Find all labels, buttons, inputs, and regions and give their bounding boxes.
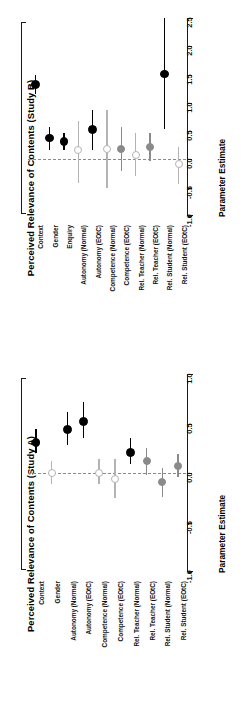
estimate-marker — [60, 137, 69, 146]
axis-tick-label: 1.0 — [185, 102, 194, 112]
panel-b-category-labels: ContextGenderEnquiryAutonomy (Normal)Aut… — [28, 222, 186, 342]
estimate-marker — [160, 70, 169, 79]
estimate-marker — [117, 145, 125, 153]
category-label: Rel. Teacher (Normal) — [136, 156, 143, 222]
axis-tick-label: 1.0 — [185, 373, 194, 383]
panel-b-value-axis: -1.0-0.50.00.51.01.52.02.5 — [187, 18, 192, 216]
estimate-marker — [74, 146, 82, 154]
estimate-marker — [88, 125, 97, 134]
estimate-marker — [63, 425, 72, 434]
axis-tick-label: 0.5 — [185, 423, 194, 433]
category-label: Autonomy (EOtC) — [83, 524, 90, 578]
panel-a-axis-caption: Parameter Estimate — [217, 454, 227, 614]
category-label: Autonomy (Normal) — [78, 162, 85, 222]
category-label: Context — [35, 198, 42, 222]
category-label: Competence (EOtC) — [121, 162, 128, 222]
estimate-marker — [45, 134, 54, 143]
estimate-marker — [111, 475, 119, 483]
category-label: Gender — [52, 556, 59, 578]
category-label: Rel. Student (EOtC) — [179, 163, 186, 222]
axis-tick-label: 2.0 — [185, 46, 194, 56]
estimate-marker — [174, 462, 182, 470]
axis-tick-label: 2.5 — [185, 17, 194, 27]
axis-tick-label: -0.5 — [185, 186, 194, 199]
category-label: Rel. Teacher (Normal) — [131, 512, 138, 578]
estimate-marker — [48, 469, 56, 477]
category-label: Competence (Normal) — [107, 156, 114, 222]
category-label: Competence (EOtC) — [115, 518, 122, 578]
estimate-marker — [158, 478, 166, 486]
estimate-marker — [146, 143, 154, 151]
estimate-marker — [95, 469, 103, 477]
panel-study-b: Perceived Relevance of Contents (Study B… — [0, 0, 244, 356]
panel-b-axis-caption: Parameter Estimate — [217, 98, 227, 258]
category-label: Gender — [50, 200, 57, 222]
category-label: Autonomy (EOtC) — [93, 168, 100, 222]
axis-tick-label: 0.5 — [185, 131, 194, 141]
panel-a-category-labels: ContextGenderAutonomy (Normal)Autonomy (… — [28, 578, 186, 698]
category-label: Rel. Student (EOtC) — [178, 519, 185, 578]
estimate-marker — [31, 80, 40, 89]
category-label: Competence (Normal) — [99, 512, 106, 578]
axis-tick-label: -0.5 — [185, 521, 194, 534]
category-label: Rel. Teacher (EOtC) — [147, 518, 154, 578]
axis-tick-label: 0.0 — [185, 472, 194, 482]
panel-b-category-axis — [21, 22, 26, 214]
figure-canvas: Perceived Relevance of Contents (Study B… — [0, 0, 244, 712]
category-label: Enquiry — [64, 198, 71, 222]
panel-study-a: Perceived Relevance of Contents (Study A… — [0, 356, 244, 712]
estimate-marker — [143, 457, 151, 465]
category-label: Context — [36, 554, 43, 578]
estimate-marker — [126, 448, 135, 457]
panel-a-category-axis — [21, 378, 26, 570]
estimate-marker — [79, 417, 88, 426]
estimate-marker — [103, 145, 111, 153]
panel-a-value-axis: -1.0-0.50.00.51.0 — [187, 374, 192, 572]
category-label: Rel. Teacher (EOtC) — [150, 162, 157, 222]
category-label: Rel. Student (Normal) — [164, 157, 171, 222]
category-label: Autonomy (Normal) — [68, 518, 75, 578]
estimate-marker — [32, 438, 41, 447]
axis-tick-label: 0.0 — [185, 159, 194, 169]
axis-tick-label: 1.5 — [185, 74, 194, 84]
category-label: Rel. Student (Normal) — [162, 513, 169, 578]
